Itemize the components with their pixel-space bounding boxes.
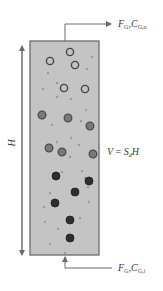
gray-bubble [64, 114, 72, 122]
outlet-label: FG,CG,o [118, 19, 146, 30]
small-bubble [56, 82, 58, 84]
small-bubble [87, 186, 89, 188]
small-bubble [47, 72, 49, 74]
small-bubble [85, 109, 87, 111]
small-bubble [49, 243, 51, 245]
small-bubble [81, 170, 83, 172]
dark-bubble [66, 234, 74, 242]
inlet-label: FG,CG,i [118, 263, 145, 274]
gas-outlet-arrow [65, 24, 111, 41]
small-bubble [56, 141, 58, 143]
small-bubble [44, 221, 46, 223]
small-bubble [88, 201, 90, 203]
small-bubble [70, 137, 72, 139]
small-bubble [49, 192, 51, 194]
small-bubble [78, 144, 80, 146]
dark-bubble [52, 172, 60, 180]
small-bubble [80, 120, 82, 122]
dark-bubble [66, 216, 74, 224]
small-bubble [70, 98, 72, 100]
small-bubble [57, 228, 59, 230]
height-label: H [7, 139, 17, 146]
small-bubble [56, 96, 58, 98]
dark-bubble [51, 199, 59, 207]
volume-label: V = SdH [107, 147, 139, 158]
small-bubble [42, 88, 44, 90]
small-bubble [91, 56, 93, 58]
dark-bubble [85, 177, 93, 185]
small-bubble [86, 68, 88, 70]
column-vessel [30, 41, 99, 255]
small-bubble [64, 252, 66, 254]
bubble-column-diagram: FG,CG,o V = SdH H FG,CG,i [0, 0, 163, 291]
gray-bubble [45, 144, 53, 152]
small-bubble [69, 156, 71, 158]
small-bubble [61, 171, 63, 173]
gas-inlet-arrow [65, 257, 112, 268]
gray-bubble [38, 111, 46, 119]
gray-bubble [86, 122, 94, 130]
small-bubble [79, 217, 81, 219]
small-bubble [43, 206, 45, 208]
dark-bubble [71, 188, 79, 196]
gray-bubble [58, 148, 66, 156]
gray-bubble [89, 150, 97, 158]
small-bubble [51, 124, 53, 126]
